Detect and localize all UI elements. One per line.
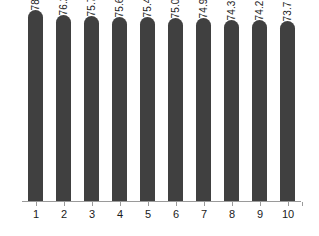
x-axis-tick (148, 202, 149, 206)
bar-chart: 78.376.275.775.675.475.074.974.374.273.7… (0, 0, 319, 236)
x-axis-label: 6 (162, 208, 190, 220)
x-axis-tick (92, 202, 93, 206)
bar-value-label: 76.2 (50, 0, 78, 11)
bar-group: 75.4 (134, 6, 162, 201)
bar-value-text: 78.3 (31, 0, 42, 11)
bar[interactable] (84, 16, 99, 201)
bar[interactable] (280, 21, 295, 201)
bar-value-text: 75.0 (171, 0, 182, 19)
bar-group: 78.3 (22, 6, 50, 201)
bar-value-text: 75.4 (143, 0, 154, 18)
x-axis-tick (260, 202, 261, 206)
x-axis-label: 1 (22, 208, 50, 220)
bar-value-text: 76.2 (59, 0, 70, 16)
x-axis-tick-end (302, 202, 303, 206)
bar-value-label: 75.7 (78, 1, 106, 12)
x-axis-tick (120, 202, 121, 206)
x-axis-label: 8 (218, 208, 246, 220)
bar-value-text: 75.6 (115, 0, 126, 17)
bar-value-label: 74.3 (218, 5, 246, 16)
bar[interactable] (252, 20, 267, 201)
x-axis-label: 7 (190, 208, 218, 220)
bar-value-label: 74.9 (190, 3, 218, 14)
bar-value-text: 74.9 (199, 0, 210, 19)
bar-value-text: 73.7 (283, 2, 294, 22)
bar-group: 74.3 (218, 6, 246, 201)
x-axis-tick (176, 202, 177, 206)
x-axis-label: 3 (78, 208, 106, 220)
x-axis-tick (288, 202, 289, 206)
bar-value-text: 74.2 (255, 1, 266, 21)
bar[interactable] (140, 17, 155, 201)
x-axis-tick (204, 202, 205, 206)
bar-value-label: 74.2 (246, 5, 274, 16)
bar-group: 73.7 (274, 6, 302, 201)
x-axis-tick (36, 202, 37, 206)
bar-value-label: 75.6 (106, 2, 134, 13)
bar-group: 75.7 (78, 6, 106, 201)
x-axis-label: 4 (106, 208, 134, 220)
x-axis-label: 9 (246, 208, 274, 220)
x-axis-tick-labels: 12345678910 (22, 208, 300, 228)
bar-group: 76.2 (50, 6, 78, 201)
bar-value-text: 74.3 (227, 0, 238, 20)
bar[interactable] (196, 18, 211, 201)
bar[interactable] (224, 20, 239, 201)
bar-group: 75.0 (162, 6, 190, 201)
x-axis-label: 10 (274, 208, 302, 220)
bar-group: 75.6 (106, 6, 134, 201)
bar-group: 74.2 (246, 6, 274, 201)
bar[interactable] (112, 17, 127, 201)
bar[interactable] (28, 10, 43, 201)
bar-value-label: 78.3 (22, 0, 50, 6)
bar-value-label: 73.7 (274, 6, 302, 17)
plot-area: 78.376.275.775.675.475.074.974.374.273.7 (22, 6, 300, 201)
x-axis-tick (64, 202, 65, 206)
bar[interactable] (56, 15, 71, 201)
x-axis-label: 2 (50, 208, 78, 220)
bar-value-label: 75.4 (134, 2, 162, 13)
x-axis-label: 5 (134, 208, 162, 220)
bar-value-label: 75.0 (162, 3, 190, 14)
bar[interactable] (168, 18, 183, 201)
bar-value-text: 75.7 (87, 0, 98, 17)
bar-group: 74.9 (190, 6, 218, 201)
x-axis-tick (232, 202, 233, 206)
